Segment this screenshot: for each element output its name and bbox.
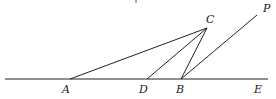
label-P: P bbox=[262, 2, 271, 15]
label-C: C bbox=[206, 13, 215, 26]
diagram-svg: A D B E C P bbox=[0, 0, 276, 99]
label-A: A bbox=[61, 83, 70, 96]
geometry-diagram: A D B E C P bbox=[0, 0, 276, 99]
ray-BP bbox=[181, 15, 257, 79]
label-E: E bbox=[253, 83, 262, 96]
label-B: B bbox=[175, 83, 184, 96]
segment-DC bbox=[147, 28, 207, 79]
label-D: D bbox=[138, 83, 148, 96]
segment-BC bbox=[181, 28, 207, 79]
segment-AC bbox=[70, 28, 207, 79]
